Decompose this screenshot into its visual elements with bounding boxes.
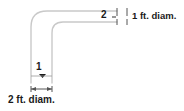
station-2-label: 2 — [101, 10, 107, 20]
top-diameter-label: 1 ft. diam. — [132, 11, 176, 21]
pipe-diagram: 2 1 1 ft. diam. 2 ft. diam. — [0, 0, 184, 111]
station-1-label: 1 — [36, 62, 42, 72]
bottom-diameter-label: 2 ft. diam. — [8, 95, 55, 105]
bottom-dimension-arrow-left — [31, 87, 36, 91]
bottom-dimension-arrow-right — [47, 87, 52, 91]
pipe-inner-wall — [52, 22, 117, 83]
